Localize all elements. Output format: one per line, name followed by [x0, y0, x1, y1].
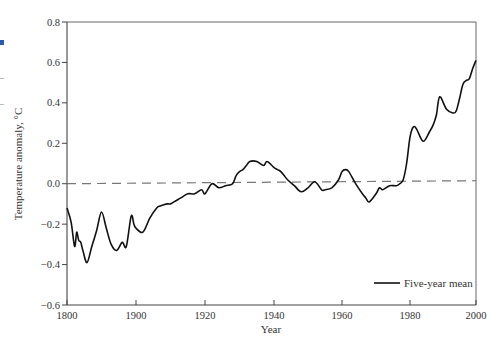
temperature-anomaly-chart: 0.80.60.40.20.0−0.2−0.4−0.6 180019001920…: [0, 0, 499, 349]
legend: Five-year mean: [374, 277, 473, 289]
y-axis-title: Temperature anomaly, °C: [12, 108, 24, 221]
y-axis: 0.80.60.40.20.0−0.2−0.4−0.6: [41, 17, 67, 311]
x-tick-label: 2000: [466, 310, 487, 321]
x-tick-label: 1920: [195, 310, 216, 321]
x-tick-label: 1940: [264, 310, 285, 321]
zero-reference-line: [67, 181, 476, 184]
series-five-year-mean: [67, 60, 476, 262]
y-tick-label: 0.8: [47, 17, 60, 28]
x-tick-label: 1980: [400, 310, 421, 321]
y-tick-label: −0.4: [41, 259, 61, 270]
legend-label: Five-year mean: [404, 277, 473, 289]
x-axis: 1800190019201940196019802000: [57, 300, 487, 321]
x-tick-label: 1800: [57, 310, 78, 321]
plot-frame: [67, 22, 476, 305]
x-tick-label: 1900: [126, 310, 147, 321]
y-tick-label: 0.0: [47, 178, 60, 189]
y-tick-label: −0.2: [41, 219, 60, 230]
y-tick-label: 0.2: [47, 138, 60, 149]
y-tick-label: −0.6: [41, 300, 60, 311]
x-axis-title: Year: [261, 323, 282, 335]
y-tick-label: 0.4: [47, 97, 61, 108]
x-tick-label: 1960: [332, 310, 353, 321]
y-tick-label: 0.6: [47, 57, 60, 68]
series-line: [67, 60, 476, 262]
